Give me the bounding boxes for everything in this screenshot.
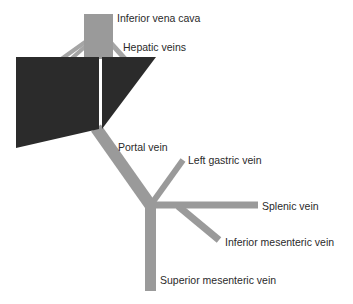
liver-right-lobe <box>102 57 156 129</box>
label-inferior-vena-cava: Inferior vena cava <box>117 12 200 24</box>
liver-left-lobe <box>16 57 99 148</box>
inferior-vena-cava <box>84 14 113 59</box>
portal-vein <box>96 128 151 206</box>
label-left-gastric-vein: Left gastric vein <box>188 154 262 166</box>
label-inferior-mesenteric-vein: Inferior mesenteric vein <box>225 236 334 248</box>
label-splenic-vein: Splenic vein <box>262 200 319 212</box>
inferior-mesenteric-vein <box>178 206 219 240</box>
label-superior-mesenteric-vein: Superior mesenteric vein <box>160 274 276 286</box>
label-hepatic-veins: Hepatic veins <box>123 41 186 53</box>
superior-mesenteric-vein <box>145 202 156 291</box>
label-portal-vein: Portal vein <box>118 141 168 153</box>
left-gastric-vein <box>150 160 183 206</box>
